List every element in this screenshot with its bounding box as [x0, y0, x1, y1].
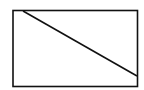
diagonal-line [23, 11, 137, 76]
diagram-canvas [0, 0, 144, 90]
rectangle-shape [13, 11, 138, 87]
